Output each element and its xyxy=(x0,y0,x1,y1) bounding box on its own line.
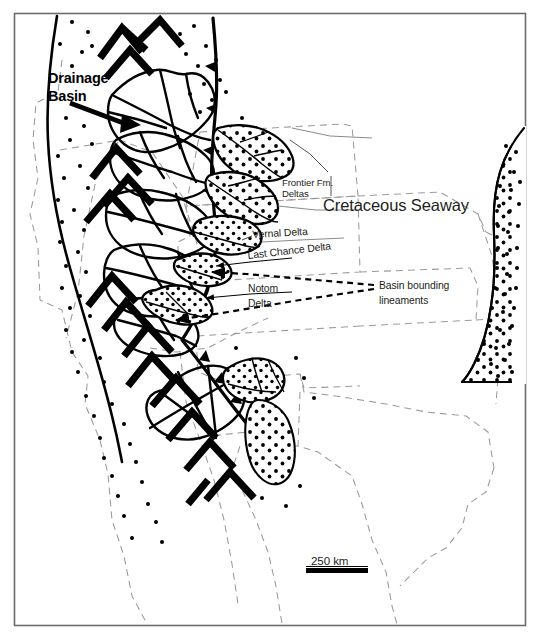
label-drainage-basin: Drainage Basin xyxy=(48,70,108,105)
basin-lineaments-line-2: lineaments xyxy=(379,294,449,309)
notom-delta-line-2: Delta xyxy=(248,296,278,311)
frontier-fm-line-2: Deltas xyxy=(282,189,333,200)
label-basin-bounding-lineaments: Basin bounding lineaments xyxy=(379,279,449,309)
scale-bar-label: 250 km xyxy=(311,554,348,567)
notom-delta-line-1: Notom xyxy=(248,281,278,296)
label-notom-delta: Notom Delta xyxy=(248,281,278,311)
basin-lineaments-line-1: Basin bounding xyxy=(379,279,449,294)
drainage-basin-line-1: Drainage xyxy=(48,70,108,88)
label-frontier-fm-deltas: Frontier Fm. Deltas xyxy=(282,178,333,199)
delta-lobe-southern xyxy=(223,358,285,402)
scale-bar xyxy=(306,567,368,574)
paleogeographic-map-figure: Drainage Basin Cretaceous Seaway Frontie… xyxy=(0,0,540,633)
drainage-basin-line-2: Basin xyxy=(48,88,108,106)
label-cretaceous-seaway: Cretaceous Seaway xyxy=(323,196,469,214)
